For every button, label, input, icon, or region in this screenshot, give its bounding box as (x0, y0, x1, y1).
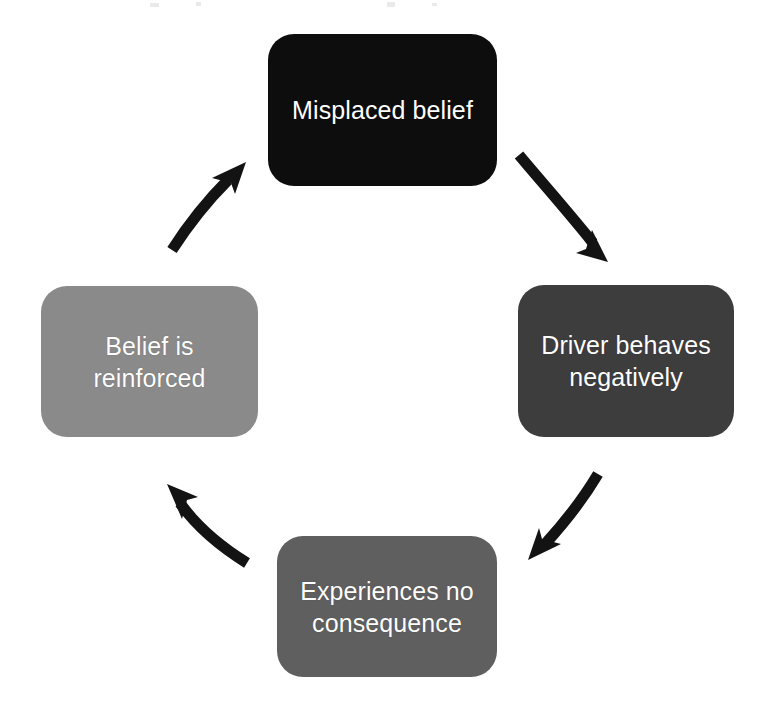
arrow-top-to-right (519, 155, 608, 262)
scan-speck (387, 2, 395, 7)
node-driver-behaves-negatively-label: Driver behaves negatively (541, 329, 711, 393)
scan-speck (196, 2, 201, 6)
node-belief-is-reinforced-label: Belief is reinforced (93, 330, 205, 394)
arrow-bottom-to-left-shaft (180, 503, 247, 563)
node-experiences-no-consequence[interactable]: Experiences no consequence (277, 536, 497, 677)
arrow-bottom-to-left-head (167, 484, 198, 519)
diagram-canvas: Misplaced belief Driver behaves negative… (0, 0, 758, 719)
node-misplaced-belief[interactable]: Misplaced belief (268, 34, 497, 186)
arrow-top-to-right-shaft (519, 155, 593, 243)
node-driver-behaves-negatively[interactable]: Driver behaves negatively (518, 285, 734, 437)
arrow-bottom-to-left (167, 484, 247, 563)
arrow-right-to-bottom-head (528, 528, 561, 560)
node-experiences-no-consequence-label: Experiences no consequence (300, 575, 474, 639)
arrow-top-to-right-head (576, 230, 608, 262)
arrow-left-to-top-shaft (172, 180, 228, 250)
scan-speck (150, 3, 159, 7)
scan-speck (432, 3, 437, 6)
node-belief-is-reinforced[interactable]: Belief is reinforced (41, 286, 258, 437)
node-misplaced-belief-label: Misplaced belief (292, 94, 473, 126)
arrow-left-to-top (172, 162, 246, 250)
arrow-right-to-bottom-shaft (546, 474, 598, 543)
arrow-left-to-top-head (212, 162, 246, 194)
arrow-right-to-bottom (528, 474, 598, 560)
